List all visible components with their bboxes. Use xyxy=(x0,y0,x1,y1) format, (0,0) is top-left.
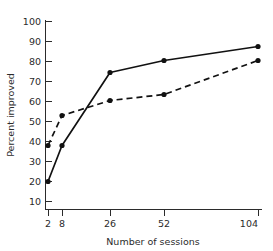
data-point-marker xyxy=(45,143,50,148)
y-axis-tick-labels: 102030405060708090100 xyxy=(23,16,41,207)
x-tick-label: 8 xyxy=(59,218,65,229)
data-point-marker xyxy=(45,179,50,184)
x-tick-label: 104 xyxy=(240,218,258,229)
y-tick-label: 80 xyxy=(29,56,41,67)
data-point-marker xyxy=(107,98,112,103)
y-tick-label: 90 xyxy=(29,36,41,47)
x-axis-title: Number of sessions xyxy=(106,236,200,247)
x-tick-label: 2 xyxy=(45,218,51,229)
data-point-marker xyxy=(255,44,260,49)
y-tick-label: 40 xyxy=(29,136,41,147)
y-tick-label: 70 xyxy=(29,76,41,87)
y-tick-label: 10 xyxy=(29,196,41,207)
x-tick-label: 26 xyxy=(104,218,116,229)
y-tick-label: 20 xyxy=(29,176,41,187)
data-point-marker xyxy=(161,58,166,63)
line-chart-canvas: 102030405060708090100 282652104 Number o… xyxy=(0,0,273,251)
x-axis-ticks xyxy=(48,210,258,216)
y-tick-label: 50 xyxy=(29,116,41,127)
x-axis-tick-labels: 282652104 xyxy=(45,218,258,229)
x-tick-label: 52 xyxy=(158,218,170,229)
data-point-marker xyxy=(59,113,64,118)
data-point-marker xyxy=(255,58,260,63)
data-series-layer xyxy=(45,44,260,184)
series-line-solid xyxy=(48,47,258,182)
y-tick-label: 60 xyxy=(29,96,41,107)
y-axis-title: Percent improved xyxy=(5,73,16,157)
data-point-marker xyxy=(107,70,112,75)
series-line-dashed xyxy=(48,61,258,146)
data-point-marker xyxy=(59,143,64,148)
y-tick-label: 100 xyxy=(23,16,41,27)
y-tick-label: 30 xyxy=(29,156,41,167)
data-point-marker xyxy=(161,92,166,97)
chart-figure: 102030405060708090100 282652104 Number o… xyxy=(0,0,273,251)
